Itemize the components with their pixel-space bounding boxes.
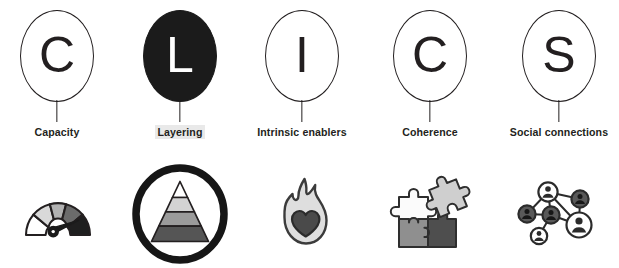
bubble-letter-text: C [412, 30, 448, 80]
gauge-hub-center [52, 230, 55, 233]
icon-cell-social-connections [494, 160, 618, 268]
clics-framework-graphic: C Capacity L Layering I Intri [0, 0, 619, 268]
acronym-item-coherence[interactable]: C Coherence [368, 0, 492, 150]
puzzle-piece-bottom-left [399, 218, 428, 247]
connector-stem-coherence [429, 100, 430, 122]
acronym-row: C Capacity L Layering I Intri [0, 0, 619, 150]
acronym-item-social-connections[interactable]: S Social connections [497, 0, 619, 150]
bubble-letter-text: I [295, 30, 309, 80]
network-nodes [518, 182, 591, 244]
acronym-label-layering: Layering [118, 126, 242, 138]
acronym-label-capacity: Capacity [0, 126, 119, 138]
connector-stem-intrinsic-enablers [301, 100, 302, 122]
connector-stem-social-connections [558, 100, 559, 122]
acronym-label-social-connections: Social connections [485, 126, 619, 138]
icon-cell-layering [118, 160, 242, 268]
gauge-icon [20, 183, 96, 245]
social-network-icon [513, 177, 599, 251]
bubble-wrap-capacity: C [0, 0, 119, 100]
acronym-item-capacity[interactable]: C Capacity [0, 0, 119, 150]
connector-stem-layering [179, 100, 180, 122]
letter-bubble-s: S [522, 10, 596, 102]
jigsaw-puzzle-icon [385, 175, 471, 253]
acronym-label-layering-text: Layering [155, 125, 206, 139]
letter-bubble-c2: C [393, 10, 467, 102]
icon-cell-intrinsic-enablers [242, 160, 366, 268]
pyramid-in-circle-icon [128, 162, 232, 266]
flame-heart-icon [273, 174, 335, 254]
bubble-wrap-coherence: C [368, 0, 492, 100]
icon-cell-capacity [0, 160, 120, 268]
letter-bubble-l: L [143, 10, 217, 102]
acronym-label-intrinsic-enablers: Intrinsic enablers [228, 126, 376, 138]
acronym-label-coherence: Coherence [368, 126, 492, 138]
icon-row [0, 160, 619, 268]
letter-bubble-c1: C [20, 10, 94, 102]
acronym-item-intrinsic-enablers[interactable]: I Intrinsic enablers [240, 0, 364, 150]
letter-bubble-i: I [265, 10, 339, 102]
bubble-wrap-layering: L [118, 0, 242, 100]
bubble-letter-text: S [542, 30, 575, 80]
bubble-letter-text: C [39, 30, 75, 80]
bubble-wrap-social-connections: S [497, 0, 619, 100]
bubble-wrap-intrinsic-enablers: I [240, 0, 364, 100]
icon-cell-coherence [366, 160, 490, 268]
acronym-item-layering[interactable]: L Layering [118, 0, 242, 150]
bubble-letter-text: L [166, 30, 194, 80]
connector-stem-capacity [56, 100, 57, 122]
